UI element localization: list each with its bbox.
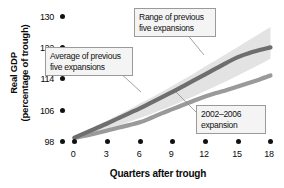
x-tick-dot-9	[170, 139, 175, 144]
x-axis-title: Quarters after trough	[58, 168, 258, 179]
annotation-average-of-previous-expansions: Average of previous five expansions	[45, 47, 133, 76]
x-tick-dot-18	[268, 139, 273, 144]
x-tick-dot-0	[72, 139, 77, 144]
x-tick-label-6: 6	[130, 149, 148, 159]
x-tick-label-0: 0	[64, 149, 82, 159]
x-tick-dot-12	[203, 139, 208, 144]
x-tick-label-15: 15	[228, 149, 246, 159]
x-tick-dot-3	[105, 139, 110, 144]
x-tick-label-12: 12	[195, 149, 213, 159]
x-tick-label-18: 18	[260, 149, 278, 159]
annotation-2002-2006-expansion: 2002–2006 expansion	[196, 105, 266, 134]
x-tick-label-3: 3	[97, 149, 115, 159]
x-tick-dot-15	[236, 139, 241, 144]
chart-container: Real GDP (percentage of trough) 130 122 …	[0, 0, 284, 188]
annotation-range-of-previous-expansions: Range of previous five expansions	[134, 8, 216, 37]
x-tick-label-9: 9	[162, 149, 180, 159]
x-tick-dot-6	[138, 139, 143, 144]
